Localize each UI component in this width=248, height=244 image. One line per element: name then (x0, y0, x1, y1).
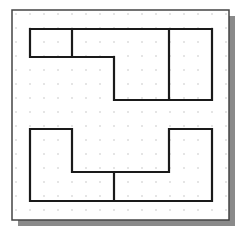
grid-dot (71, 69, 72, 70)
grid-dot (57, 153, 58, 154)
grid-dot (141, 125, 142, 126)
grid-dot (99, 209, 100, 210)
grid-dot (155, 111, 156, 112)
grid-dot (155, 13, 156, 14)
grid-dot (43, 83, 44, 84)
grid-dot (197, 139, 198, 140)
grid-dot (71, 209, 72, 210)
grid-dot (57, 13, 58, 14)
grid-dot (225, 111, 226, 112)
grid-dot (155, 195, 156, 196)
grid-dot (99, 41, 100, 42)
grid-dot (197, 181, 198, 182)
grid-dot (15, 153, 16, 154)
grid-dot (169, 195, 170, 196)
grid-dot (211, 209, 212, 210)
grid-dot (71, 195, 72, 196)
grid-dot (225, 167, 226, 168)
grid-dot (57, 83, 58, 84)
grid-dot (71, 97, 72, 98)
grid-dot (57, 181, 58, 182)
grid-dot (85, 69, 86, 70)
grid-dot (197, 13, 198, 14)
grid-dot (183, 111, 184, 112)
grid-dot (141, 181, 142, 182)
grid-dot (57, 69, 58, 70)
grid-dot (113, 167, 114, 168)
grid-dot (71, 83, 72, 84)
grid-dot (225, 13, 226, 14)
grid-dot (225, 41, 226, 42)
grid-dot (99, 69, 100, 70)
grid-dot (197, 83, 198, 84)
grid-dot (183, 13, 184, 14)
grid-dot (211, 111, 212, 112)
grid-dot (141, 111, 142, 112)
grid-dot (85, 13, 86, 14)
grid-dot (29, 209, 30, 210)
grid-dot (155, 41, 156, 42)
grid-dot (71, 13, 72, 14)
grid-dot (225, 69, 226, 70)
grid-dot (29, 83, 30, 84)
grid-dot (197, 167, 198, 168)
grid-dot (127, 125, 128, 126)
grid-dot (183, 209, 184, 210)
grid-dot (197, 195, 198, 196)
grid-dot (183, 167, 184, 168)
grid-dot (183, 153, 184, 154)
grid-dot (99, 153, 100, 154)
grid-dot (15, 27, 16, 28)
grid-dot (43, 195, 44, 196)
grid-dot (225, 181, 226, 182)
grid-dot (15, 209, 16, 210)
grid-dot (197, 111, 198, 112)
grid-dot (127, 41, 128, 42)
grid-dot (99, 97, 100, 98)
grid-dot (15, 41, 16, 42)
grid-dot (225, 195, 226, 196)
grid-dot (183, 69, 184, 70)
grid-dot (211, 13, 212, 14)
grid-dot (99, 111, 100, 112)
grid-dot (141, 55, 142, 56)
grid-dot (169, 181, 170, 182)
grid-dot (113, 111, 114, 112)
grid-dot (211, 125, 212, 126)
grid-dot (141, 153, 142, 154)
diagram-canvas (0, 0, 248, 244)
grid-dot (127, 55, 128, 56)
grid-dot (141, 83, 142, 84)
grid-dot (57, 125, 58, 126)
grid-dot (127, 83, 128, 84)
grid-dot (43, 181, 44, 182)
grid-dot (127, 153, 128, 154)
grid-dot (197, 41, 198, 42)
grid-dot (183, 139, 184, 140)
grid-dot (99, 167, 100, 168)
grid-dot (113, 125, 114, 126)
grid-dot (197, 97, 198, 98)
grid-dot (127, 167, 128, 168)
grid-dot (85, 181, 86, 182)
grid-dot (29, 97, 30, 98)
grid-dot (57, 195, 58, 196)
grid-dot (15, 195, 16, 196)
grid-dot (155, 181, 156, 182)
grid-dot (57, 139, 58, 140)
grid-dot (85, 209, 86, 210)
grid-dot (127, 13, 128, 14)
grid-dot (15, 83, 16, 84)
grid-dot (141, 69, 142, 70)
grid-dot (155, 167, 156, 168)
grid-dot (99, 83, 100, 84)
grid-dot (183, 83, 184, 84)
grid-dot (155, 97, 156, 98)
grid-dot (85, 41, 86, 42)
grid-dot (183, 55, 184, 56)
grid-dot (15, 111, 16, 112)
grid-dot (155, 83, 156, 84)
grid-dot (141, 195, 142, 196)
grid-dot (155, 69, 156, 70)
grid-dot (141, 97, 142, 98)
